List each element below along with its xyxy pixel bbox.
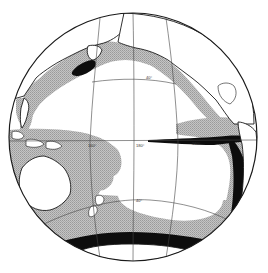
pacific-hemisphere-map: 160° 180° 160° 40° 40° [0,0,268,273]
label-lon-180: 180° [136,143,145,148]
label-lat-40s: 40° [136,198,142,203]
label-lat-40n: 40° [146,75,152,80]
label-lon-160e: 160° [88,143,97,148]
label-lon-160w: 160° [192,141,201,146]
map-canvas: 160° 180° 160° 40° 40° [0,0,268,273]
